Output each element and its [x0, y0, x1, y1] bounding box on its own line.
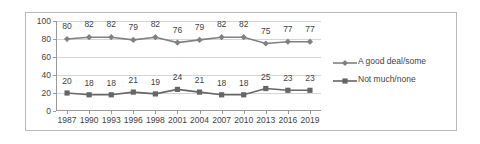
data-point-label: 20 — [62, 77, 71, 86]
data-point-label: 79 — [195, 23, 204, 32]
x-tick-label: 2001 — [168, 116, 187, 125]
series-marker — [307, 39, 313, 45]
series-marker — [196, 37, 202, 43]
series-line — [67, 89, 310, 95]
data-point-label: 25 — [261, 72, 270, 81]
legend-label: A good deal/some — [358, 57, 426, 66]
series-marker — [285, 39, 291, 45]
x-tick-mark — [177, 111, 178, 114]
y-tick-label: 60 — [42, 53, 51, 62]
y-tick-label: 20 — [42, 89, 51, 98]
x-tick-label: 1987 — [58, 116, 77, 125]
legend-item[interactable]: A good deal/some — [332, 52, 452, 70]
y-tick-label: 0 — [46, 107, 51, 116]
series-marker — [64, 36, 70, 42]
x-tick-mark — [244, 111, 245, 114]
x-tick-mark — [67, 111, 68, 114]
data-point-label: 24 — [173, 73, 182, 82]
series-marker — [152, 34, 158, 40]
series-line — [67, 37, 310, 43]
series-marker — [131, 90, 136, 95]
series-marker — [285, 88, 290, 93]
data-point-label: 18 — [239, 79, 248, 88]
x-tick-mark — [222, 111, 223, 114]
data-point-label: 19 — [151, 78, 160, 87]
series-marker — [219, 34, 225, 40]
x-tick-mark — [288, 111, 289, 114]
data-point-label: 21 — [129, 76, 138, 85]
data-point-label: 21 — [195, 76, 204, 85]
legend-item[interactable]: Not much/none — [332, 70, 452, 88]
x-tick-mark — [266, 111, 267, 114]
y-tick-label: 100 — [37, 17, 51, 26]
series-marker — [175, 87, 180, 92]
data-point-label: 23 — [305, 74, 314, 83]
data-point-label: 82 — [239, 20, 248, 29]
x-tick-label: 2013 — [256, 116, 275, 125]
series-lines — [56, 21, 321, 111]
data-point-label: 77 — [283, 24, 292, 33]
x-tick-mark — [155, 111, 156, 114]
series-marker — [241, 92, 246, 97]
x-tick-label: 2010 — [234, 116, 253, 125]
x-tick-label: 1996 — [124, 116, 143, 125]
x-tick-mark — [111, 111, 112, 114]
x-tick-label: 1998 — [146, 116, 165, 125]
x-tick-label: 2016 — [278, 116, 297, 125]
series-marker — [219, 92, 224, 97]
data-point-label: 75 — [261, 26, 270, 35]
chart-screenshot: 020406080100 198719901993199619982001200… — [0, 0, 480, 144]
data-point-label: 76 — [173, 25, 182, 34]
data-point-label: 18 — [106, 79, 115, 88]
x-tick-mark — [200, 111, 201, 114]
data-point-label: 18 — [84, 79, 93, 88]
data-point-label: 79 — [129, 23, 138, 32]
data-point-label: 18 — [217, 79, 226, 88]
series-marker — [153, 91, 158, 96]
series-marker — [197, 90, 202, 95]
series-marker — [86, 34, 92, 40]
x-tick-label: 2004 — [190, 116, 209, 125]
x-tick-label: 1990 — [80, 116, 99, 125]
y-tick-label: 80 — [42, 35, 51, 44]
x-tick-mark — [133, 111, 134, 114]
x-tick-mark — [89, 111, 90, 114]
series-marker — [130, 37, 136, 43]
legend-diamond-marker-icon — [332, 55, 358, 67]
data-point-label: 80 — [62, 22, 71, 31]
x-tick-label: 1993 — [102, 116, 121, 125]
series-marker — [108, 34, 114, 40]
data-point-label: 82 — [106, 20, 115, 29]
x-tick-mark — [310, 111, 311, 114]
data-point-label: 82 — [217, 20, 226, 29]
x-tick-label: 2007 — [212, 116, 231, 125]
series-marker — [241, 34, 247, 40]
series-marker — [87, 92, 92, 97]
series-marker — [109, 92, 114, 97]
data-point-label: 82 — [151, 20, 160, 29]
series-marker — [174, 40, 180, 46]
y-tick-label: 40 — [42, 71, 51, 80]
series-marker — [64, 90, 69, 95]
legend-label: Not much/none — [358, 75, 416, 84]
y-tick-mark — [53, 111, 56, 112]
series-marker — [263, 86, 268, 91]
legend-square-marker-icon — [332, 73, 358, 85]
x-tick-label: 2019 — [300, 116, 319, 125]
data-point-label: 77 — [305, 24, 314, 33]
series-marker — [307, 88, 312, 93]
chart-legend: A good deal/someNot much/none — [332, 52, 452, 88]
plot-area: 020406080100 198719901993199619982001200… — [56, 21, 321, 111]
data-point-label: 82 — [84, 20, 93, 29]
series-marker — [263, 40, 269, 46]
data-point-label: 23 — [283, 74, 292, 83]
